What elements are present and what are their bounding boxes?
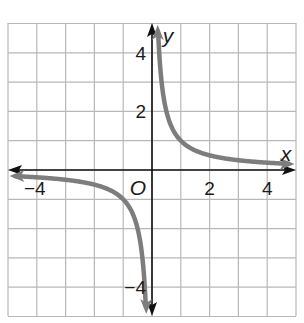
y-tick-label: −4 [124, 277, 146, 298]
x-tick-label: 2 [204, 178, 215, 199]
x-axis-label: x [280, 142, 293, 165]
origin-label: O [130, 176, 146, 199]
y-axis-label: y [161, 24, 175, 47]
y-tick-label: 2 [135, 101, 146, 122]
axes [8, 23, 296, 316]
y-tick-label: 4 [135, 43, 146, 64]
x-tick-label: 4 [262, 178, 273, 199]
hyperbola-graph: −42442−4Oyx [0, 0, 304, 323]
x-tick-label: −4 [24, 178, 46, 199]
